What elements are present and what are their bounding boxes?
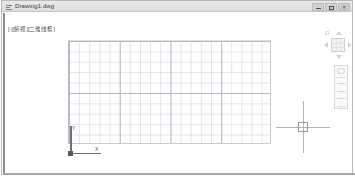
view-cube[interactable] [322, 29, 351, 61]
window-title: Drawing1.dwg [15, 2, 54, 11]
viewcube-west-arrow-icon[interactable] [324, 42, 328, 48]
viewcube-south-arrow-icon[interactable] [336, 55, 342, 59]
close-button[interactable]: ✕ [338, 3, 350, 11]
document-icon [6, 4, 12, 10]
orbit-icon[interactable] [337, 96, 346, 100]
navigation-bar[interactable] [334, 65, 348, 109]
pan-icon[interactable] [337, 81, 346, 85]
window-bottom-edge [3, 173, 355, 175]
home-icon[interactable] [325, 31, 329, 35]
viewcube-east-arrow-icon[interactable] [348, 42, 351, 48]
ucs-x-label: X [95, 146, 98, 152]
navbar-divider [336, 77, 346, 78]
showmotion-icon[interactable] [337, 104, 346, 108]
ucs-x-axis-icon [70, 153, 101, 155]
close-icon: ✕ [342, 4, 346, 9]
viewcube-top-face[interactable] [331, 38, 345, 52]
viewcube-north-arrow-icon[interactable] [336, 31, 342, 35]
steering-wheel-icon[interactable] [337, 68, 345, 74]
window-left-edge [3, 13, 5, 175]
ucs-y-label: Y [72, 125, 75, 131]
ucs-origin-icon [68, 151, 73, 156]
title-bar[interactable]: Drawing1.dwg ✕ [2, 1, 352, 12]
crosshair-cursor [276, 101, 330, 153]
ucs-icon: Y X [67, 126, 101, 156]
viewport-label[interactable]: [-][俯视][二维线框] [8, 26, 55, 33]
minimize-button[interactable] [312, 3, 324, 11]
zoom-icon[interactable] [337, 89, 346, 93]
application-window: Drawing1.dwg ✕ [-][俯视][二维线框] [1, 0, 353, 175]
pickbox-icon [298, 122, 308, 132]
maximize-button[interactable] [325, 3, 337, 11]
drawing-canvas[interactable]: [-][俯视][二维线框] Y X [4, 13, 351, 172]
window-controls: ✕ [312, 3, 350, 11]
